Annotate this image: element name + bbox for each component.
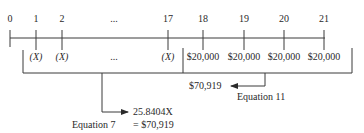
equation7-arrow bbox=[102, 73, 128, 112]
equation7-value: 25.8404X bbox=[133, 107, 173, 117]
period-label: 2 bbox=[60, 14, 65, 24]
period-label: 20 bbox=[279, 14, 289, 24]
period-ellipsis: ... bbox=[110, 14, 118, 24]
cashflow-withdrawal: $20,000 bbox=[187, 52, 220, 62]
equation7-label: Equation 7 bbox=[72, 120, 116, 130]
cashflow-deposit: (X) bbox=[162, 52, 175, 62]
equation11-value: $70,919 bbox=[189, 81, 222, 91]
cashflow-withdrawal: $20,000 bbox=[308, 52, 341, 62]
period-label: 1 bbox=[34, 14, 39, 24]
timeline-diagram: 0 1 2 ... 17 18 19 20 21 (X) (X) ... (X)… bbox=[0, 0, 364, 133]
period-label: 19 bbox=[239, 14, 249, 24]
equation11-arrow bbox=[231, 73, 265, 86]
cashflow-ellipsis: ... bbox=[110, 52, 118, 62]
equation11-label: Equation 11 bbox=[237, 92, 285, 102]
cashflow-deposit: (X) bbox=[56, 52, 69, 62]
period-label: 18 bbox=[198, 14, 208, 24]
cashflow-withdrawal: $20,000 bbox=[228, 52, 261, 62]
diagram-lines bbox=[0, 0, 364, 133]
equation7-result: = $70,919 bbox=[133, 120, 174, 130]
cashflow-deposit: (X) bbox=[30, 52, 43, 62]
period-label: 17 bbox=[163, 14, 173, 24]
period-label: 0 bbox=[8, 14, 13, 24]
period-label: 21 bbox=[319, 14, 329, 24]
cashflow-withdrawal: $20,000 bbox=[268, 52, 301, 62]
